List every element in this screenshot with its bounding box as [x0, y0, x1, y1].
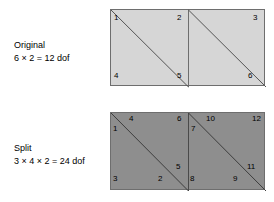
split-mesh-diagram: 1 4 6 5 3 2 7 10 12 11 8 9 — [110, 112, 265, 190]
node-label: 3 — [113, 175, 117, 183]
node-label: 12 — [252, 115, 261, 123]
split-mesh-lines — [110, 112, 267, 192]
node-label: 11 — [247, 163, 255, 171]
node-label: 1 — [113, 125, 117, 133]
caption-original: Original 6 × 2 = 12 dof — [14, 39, 70, 65]
caption-split-formula: 3 × 4 × 2 = 24 dof — [14, 155, 85, 168]
node-label: 4 — [114, 72, 118, 80]
node-label: 2 — [177, 14, 181, 22]
node-label: 2 — [158, 175, 162, 183]
node-label: 5 — [176, 163, 180, 171]
original-mesh-diagram: 1 2 4 5 3 6 — [110, 9, 265, 86]
node-label: 9 — [233, 175, 237, 183]
node-label: 3 — [253, 14, 257, 22]
caption-split: Split 3 × 4 × 2 = 24 dof — [14, 142, 85, 168]
node-label: 8 — [190, 175, 194, 183]
node-label: 6 — [177, 115, 181, 123]
node-label: 6 — [248, 72, 252, 80]
diagonal-left-quad — [111, 113, 189, 191]
original-mesh-lines — [110, 9, 267, 88]
node-label: 4 — [129, 115, 133, 123]
figure-root: Original 6 × 2 = 12 dof Split 3 × 4 × 2 … — [0, 0, 274, 202]
caption-original-formula: 6 × 2 = 12 dof — [14, 52, 70, 65]
node-label: 10 — [206, 115, 215, 123]
node-label: 5 — [177, 72, 181, 80]
caption-original-title: Original — [14, 39, 70, 52]
diagonal-right-quad — [189, 113, 267, 191]
node-label: 1 — [114, 14, 118, 22]
node-label: 7 — [191, 125, 195, 133]
caption-split-title: Split — [14, 142, 85, 155]
